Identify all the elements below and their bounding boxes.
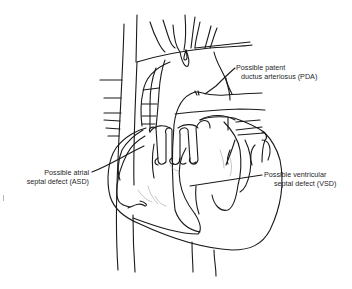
edge-artifact bbox=[3, 195, 4, 201]
pulmonary-veins-left bbox=[100, 80, 122, 136]
heart-diagram bbox=[0, 0, 352, 289]
pulmonary-veins-right bbox=[228, 118, 264, 135]
inferior-vessels bbox=[192, 242, 216, 276]
valves bbox=[149, 121, 210, 166]
aortic-arch bbox=[137, 15, 252, 100]
pda-label-line2: ductus arteriosus (PDA) bbox=[236, 73, 317, 82]
asd-label-line2: septal defect (ASD) bbox=[19, 178, 89, 187]
heart-chambers bbox=[117, 122, 251, 234]
vsd-label-line2: septal defect (VSD) bbox=[264, 180, 341, 189]
pda-label: Possible patent ductus arteriosus (PDA) bbox=[236, 64, 317, 81]
asd-label: Possible atrial septal defect (ASD) bbox=[19, 169, 89, 186]
vsd-label: Possible ventricular septal defect (VSD) bbox=[264, 171, 341, 188]
ascending-aorta bbox=[141, 60, 170, 128]
